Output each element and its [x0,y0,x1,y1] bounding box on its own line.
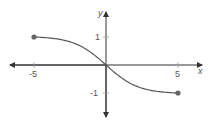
y-tick-label-1: 1 [95,33,100,42]
function-plot [0,0,209,121]
x-tick-label-neg5: -5 [29,70,37,79]
endpoint-left [31,34,36,39]
x-axis-label: x [198,67,203,76]
y-axis-label: y [98,9,103,18]
x-tick-label-5: 5 [175,70,180,79]
y-tick-label-neg1: -1 [90,89,98,98]
endpoint-right [175,90,180,95]
